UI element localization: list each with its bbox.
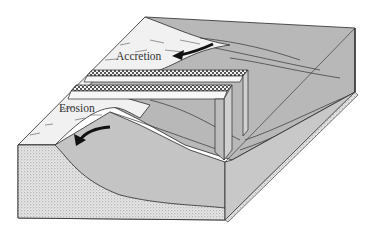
erosion-label: Erosion xyxy=(59,102,95,114)
beach-block-diagram: Accretion Erosion xyxy=(0,0,368,230)
accretion-label: Accretion xyxy=(116,50,162,62)
